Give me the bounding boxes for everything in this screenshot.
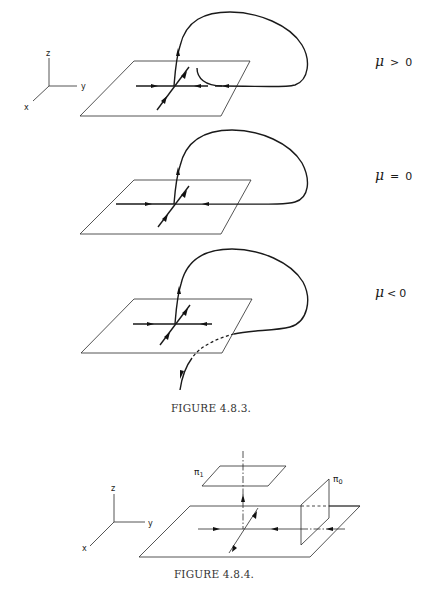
unstable-manifold-below-plane bbox=[192, 334, 234, 358]
arrow-right-icon bbox=[151, 84, 158, 88]
pi0-label: π0 bbox=[333, 474, 343, 486]
stable-manifold-curl bbox=[197, 68, 222, 86]
z-axis-label: z bbox=[111, 484, 115, 493]
arrow-left-icon bbox=[202, 202, 209, 206]
arrow-left-icon bbox=[326, 527, 333, 531]
y-axis-label: y bbox=[81, 82, 86, 91]
panel-mu-positive: μ>0 bbox=[80, 12, 412, 116]
arrow-right-icon bbox=[213, 527, 220, 531]
plane bbox=[80, 180, 251, 234]
figure-caption: FIGURE 4.8.4. bbox=[174, 568, 254, 580]
unstable-manifold bbox=[175, 249, 308, 334]
arrow-inward-icon bbox=[181, 190, 187, 198]
arrow-up-icon bbox=[241, 494, 245, 502]
arrow-right-icon bbox=[147, 322, 154, 326]
homoclinic-orbit bbox=[174, 130, 307, 204]
figure-caption: FIGURE 4.8.3. bbox=[171, 402, 251, 414]
panel-mu-zero: μ=0 bbox=[80, 130, 412, 234]
arrow-right-icon bbox=[145, 202, 152, 206]
axes-triad-bottom: z y x bbox=[82, 484, 153, 553]
arrow-left-icon bbox=[200, 322, 207, 326]
condition-label: μ<0 bbox=[375, 284, 406, 300]
arrow-left-icon bbox=[194, 84, 201, 88]
homoclinic-orbit-unstable bbox=[174, 12, 307, 87]
y-axis-label: y bbox=[148, 519, 153, 528]
arrow-left-icon bbox=[271, 527, 278, 531]
condition-label: μ>0 bbox=[375, 53, 412, 69]
axes-triad-top: z y x bbox=[24, 49, 86, 112]
section-pi0 bbox=[301, 479, 329, 545]
x-axis-label: x bbox=[82, 544, 87, 553]
arrow-inward-icon bbox=[252, 511, 257, 519]
plane bbox=[80, 61, 250, 116]
panel-mu-negative: μ<0 bbox=[81, 249, 406, 390]
x-axis bbox=[90, 522, 114, 546]
diagram-canvas: z y x μ>0 bbox=[0, 0, 423, 612]
arrow-left-icon bbox=[222, 84, 229, 88]
z-axis-label: z bbox=[46, 49, 50, 58]
section-pi1 bbox=[202, 466, 286, 486]
pi1-label: π1 bbox=[194, 467, 204, 479]
diagonal-manifold bbox=[158, 186, 189, 227]
figure-4-8-3: z y x μ>0 bbox=[24, 12, 412, 414]
figure-4-8-4: z y x π1 π0 FIGURE 4.8.4. bbox=[82, 451, 360, 580]
condition-label: μ=0 bbox=[375, 167, 412, 183]
plane bbox=[81, 299, 252, 353]
arrow-outward-icon bbox=[232, 545, 237, 552]
x-axis bbox=[33, 86, 49, 101]
x-axis-label: x bbox=[24, 103, 29, 112]
arrow-inward-icon bbox=[181, 71, 187, 79]
